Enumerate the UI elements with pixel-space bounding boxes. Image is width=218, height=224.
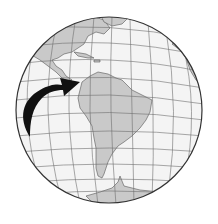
globe-illustration: Orthographic globe centered on the Ameri…	[0, 0, 218, 224]
hispaniola	[94, 60, 100, 62]
globe	[14, 12, 210, 212]
